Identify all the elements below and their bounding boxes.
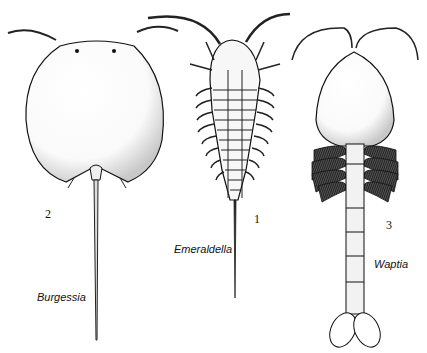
specimen-name-waptia: Waptia bbox=[374, 258, 408, 270]
specimen-number-waptia: 3 bbox=[386, 219, 392, 231]
specimen-number-emeraldella: 1 bbox=[254, 213, 260, 225]
specimen-name-emeraldella: Emeraldella bbox=[174, 243, 232, 255]
specimen-number-burgessia: 2 bbox=[45, 208, 51, 220]
emeraldella-drawing bbox=[148, 14, 290, 298]
specimen-name-burgessia: Burgessia bbox=[37, 291, 86, 303]
antenna-right bbox=[137, 27, 178, 32]
waptia-drawing bbox=[292, 28, 418, 351]
burgessia-drawing bbox=[8, 27, 178, 340]
antenna-left bbox=[8, 30, 56, 40]
